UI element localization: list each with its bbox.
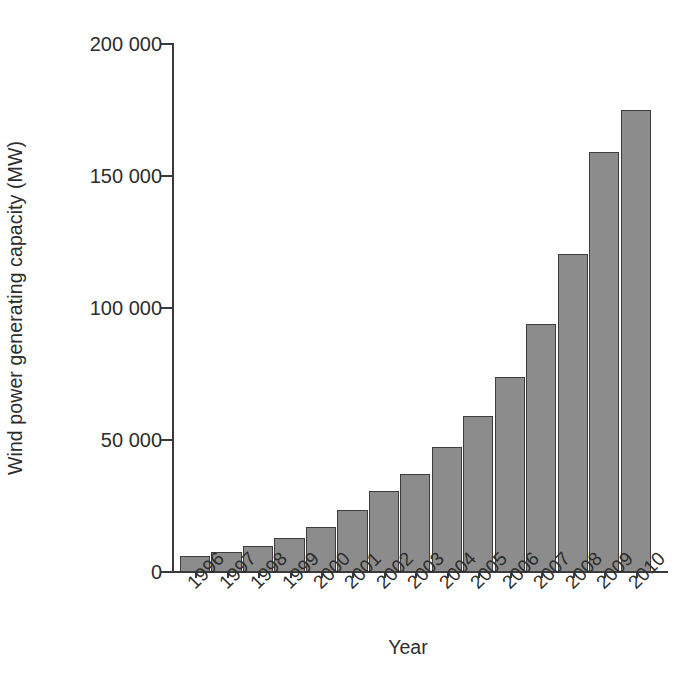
y-axis-tick-label: 100 000 [62,298,162,318]
y-axis-tick-label: 150 000 [62,166,162,186]
bar [463,416,493,572]
y-axis-tick-labels: 050 000100 000150 000200 000 [62,0,162,686]
y-axis-tick-label: 0 [62,562,162,582]
wind-power-bar-chart-figure: Wind power generating capacity (MW) 050 … [0,0,689,686]
y-axis-tick-label: 200 000 [62,34,162,54]
y-axis-tick-mark [161,439,173,441]
bar [558,254,588,572]
y-axis-tick-mark [161,571,173,573]
bar [621,110,651,572]
x-axis-tick-labels: 1996199719981999200020012002200320042005… [172,572,652,642]
x-axis-title: Year [172,636,644,659]
bars-layer [172,44,644,572]
figure-caption [16,672,676,686]
y-axis-title: Wind power generating capacity (MW) [0,44,30,572]
y-axis-tick-label: 50 000 [62,430,162,450]
y-axis-tick-mark [161,307,173,309]
bar [589,152,619,572]
y-axis-tick-mark [161,175,173,177]
y-axis-tick-mark [161,43,173,45]
bar [495,377,525,572]
bar [526,324,556,572]
